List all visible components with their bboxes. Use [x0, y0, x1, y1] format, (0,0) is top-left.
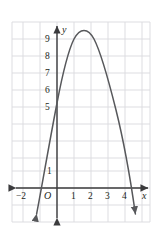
y-tick-7: 7 — [45, 68, 50, 78]
x-tick-minus2: −2 — [16, 191, 26, 201]
y-tick-8: 8 — [45, 51, 50, 61]
y-tick-6: 6 — [45, 85, 50, 95]
graph-figure: y x O 9 8 7 6 5 1 −2 1 2 3 4 — [0, 0, 160, 236]
y-tick-1: 1 — [47, 166, 52, 176]
origin-label: O — [44, 191, 51, 201]
x-axis-label: x — [142, 191, 146, 201]
y-tick-5: 5 — [45, 102, 50, 112]
y-axis-label: y — [62, 25, 66, 35]
x-tick-2: 2 — [88, 191, 93, 201]
parabola-curve — [37, 30, 136, 214]
x-tick-4: 4 — [122, 191, 127, 201]
grid-lines — [12, 22, 150, 222]
x-tick-1: 1 — [71, 191, 76, 201]
x-tick-3: 3 — [105, 191, 110, 201]
y-tick-9: 9 — [45, 34, 50, 44]
